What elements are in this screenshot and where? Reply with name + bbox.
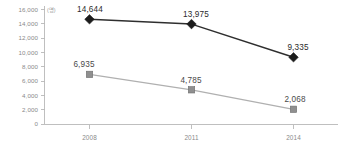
series-secondary-marker-2008 [86, 71, 92, 77]
x-tick-label-2008: 2008 [82, 134, 97, 141]
series-secondary-value-2011: 4,785 [180, 76, 202, 85]
line-chart: 16,000 14,000 12,000 10,000 8,000 6,000 … [0, 0, 342, 151]
series-primary-value-2014: 9,335 [287, 43, 309, 52]
x-tick-label-2014: 2014 [286, 134, 301, 141]
series-primary-marker-2011 [187, 19, 197, 29]
y-tick-label-14000: 14,000 [18, 20, 38, 27]
series-primary-value-2008: 14,644 [77, 5, 103, 14]
y-tick-label-4000: 4,000 [22, 92, 38, 99]
y-tick-label-0: 0 [34, 120, 38, 127]
series-secondary-marker-2011 [188, 87, 194, 93]
series-secondary-value-2008: 6,935 [73, 60, 95, 69]
series-primary-marker-2014 [289, 53, 299, 63]
y-axis-unit-label: (명) [47, 7, 56, 13]
y-tick-label-6000: 6,000 [22, 77, 38, 84]
series-primary-value-2011: 13,975 [183, 10, 209, 19]
chart-canvas: 16,000 14,000 12,000 10,000 8,000 6,000 … [0, 0, 342, 151]
y-tick-label-10000: 10,000 [18, 49, 38, 56]
series-secondary-marker-2014 [290, 106, 296, 112]
y-tick-label-12000: 12,000 [18, 34, 38, 41]
series-secondary-value-2014: 2,068 [284, 95, 306, 104]
x-tick-label-2011: 2011 [184, 134, 198, 141]
y-tick-label-2000: 2,000 [22, 106, 38, 113]
series-primary-marker-2008 [85, 15, 95, 25]
y-tick-label-8000: 8,000 [22, 63, 38, 70]
y-tick-label-16000: 16,000 [18, 6, 38, 13]
